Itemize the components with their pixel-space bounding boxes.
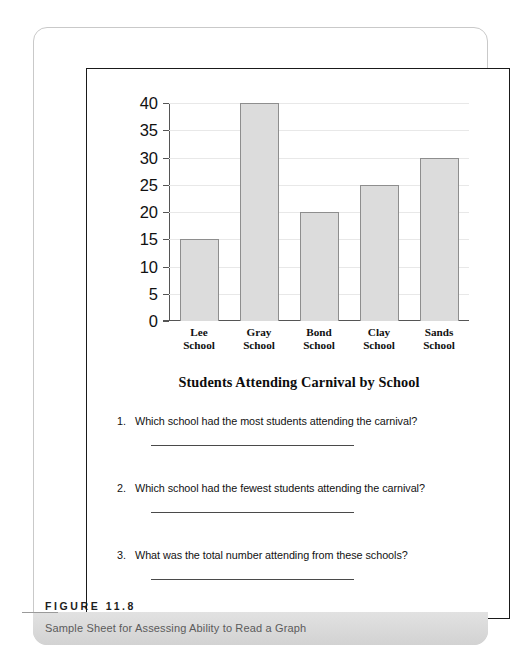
figure-number: FIGURE 11.8	[45, 600, 136, 612]
question-row: 2.Which school had the fewest students a…	[117, 481, 487, 495]
question-number: 1.	[117, 414, 135, 428]
question-text: Which school had the fewest students att…	[135, 481, 425, 495]
x-axis-category-line: School	[349, 339, 409, 352]
question-block: 1.Which school had the most students att…	[117, 414, 487, 481]
question-block: 2.Which school had the fewest students a…	[117, 481, 487, 548]
question-text: What was the total number attending from…	[135, 548, 408, 562]
bar	[300, 212, 339, 321]
caption-rule	[22, 612, 58, 613]
figure-frame: 0510152025303540 LeeSchoolGraySchoolBond…	[33, 27, 488, 645]
x-axis-category-line: School	[169, 339, 229, 352]
question-number: 2.	[117, 481, 135, 495]
x-axis-category-label: BondSchool	[289, 326, 349, 351]
figure-caption: Sample Sheet for Assessing Ability to Re…	[45, 622, 306, 634]
y-tick-label: 40	[140, 94, 158, 113]
y-tick-label: 20	[140, 203, 158, 222]
y-tick-label: 35	[140, 121, 158, 140]
y-tick-label: 25	[140, 175, 158, 194]
answer-line[interactable]	[151, 579, 354, 580]
gridline	[169, 130, 469, 131]
x-axis-category-line: School	[289, 339, 349, 352]
x-axis-category-label: ClaySchool	[349, 326, 409, 351]
x-axis-category-label: GraySchool	[229, 326, 289, 351]
y-tick-mark	[163, 239, 169, 240]
x-axis-category-label: SandsSchool	[409, 326, 469, 351]
y-tick-label: 30	[140, 148, 158, 167]
y-tick-mark	[163, 212, 169, 213]
question-row: 3.What was the total number attending fr…	[117, 548, 487, 562]
answer-line[interactable]	[151, 445, 354, 446]
y-tick-mark	[163, 130, 169, 131]
question-row: 1.Which school had the most students att…	[117, 414, 487, 428]
gridline	[169, 103, 469, 104]
answer-line[interactable]	[151, 512, 354, 513]
x-axis-category-line: Bond	[289, 326, 349, 339]
bar	[180, 239, 219, 321]
chart-title: Students Attending Carnival by School	[87, 374, 511, 391]
y-tick-mark	[163, 158, 169, 159]
y-tick-mark	[163, 321, 169, 322]
bar	[360, 185, 399, 321]
y-tick-label: 15	[140, 230, 158, 249]
y-tick-label: 0	[149, 312, 158, 331]
x-axis-category-line: School	[409, 339, 469, 352]
x-axis-category-label: LeeSchool	[169, 326, 229, 351]
question-number: 3.	[117, 548, 135, 562]
chart-plot-area: 0510152025303540 LeeSchoolGraySchoolBond…	[169, 103, 469, 321]
bar	[240, 103, 279, 321]
y-tick-mark	[163, 267, 169, 268]
x-axis-category-line: Lee	[169, 326, 229, 339]
y-tick-label: 10	[140, 257, 158, 276]
y-tick-mark	[163, 294, 169, 295]
x-axis-category-line: Clay	[349, 326, 409, 339]
question-block: 3.What was the total number attending fr…	[117, 548, 487, 615]
x-axis-category-line: Sands	[409, 326, 469, 339]
y-tick-mark	[163, 185, 169, 186]
x-axis-category-line: School	[229, 339, 289, 352]
bar-chart: 0510152025303540 LeeSchoolGraySchoolBond…	[87, 69, 511, 364]
x-axis-category-line: Gray	[229, 326, 289, 339]
y-tick-label: 5	[149, 284, 158, 303]
y-tick-mark	[163, 103, 169, 104]
question-text: Which school had the most students atten…	[135, 414, 417, 428]
bar	[420, 158, 459, 322]
question-list: 1.Which school had the most students att…	[117, 414, 487, 615]
worksheet-box: 0510152025303540 LeeSchoolGraySchoolBond…	[86, 68, 510, 619]
